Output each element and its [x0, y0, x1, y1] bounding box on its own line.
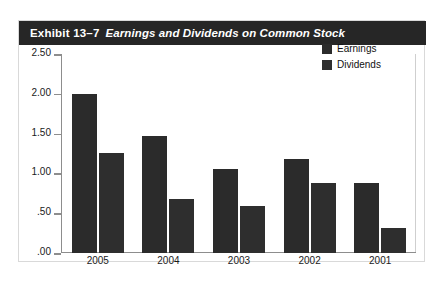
bar-group: [345, 54, 416, 253]
exhibit-card: Exhibit 13–7 Earnings and Dividends on C…: [18, 20, 425, 262]
bar-dividends-2001: [381, 228, 406, 253]
legend-item-earnings: Earnings: [322, 43, 381, 54]
y-axis-tick-mark: [54, 253, 61, 255]
exhibit-title-bar: Exhibit 13–7 Earnings and Dividends on C…: [19, 21, 426, 45]
bar-group: [274, 54, 345, 253]
y-axis-tick-mark: [54, 54, 61, 56]
y-axis-tick-mark: [54, 173, 61, 175]
legend-item-dividends: Dividends: [322, 59, 381, 70]
bar-group: [204, 54, 275, 253]
exhibit-number-label: Exhibit 13–7: [30, 27, 100, 39]
exhibit-title-text: Earnings and Dividends on Common Stock: [106, 27, 346, 39]
bar-dividends-2002: [311, 183, 336, 253]
y-axis-tick-label: 2.50: [32, 47, 51, 58]
chart-legend: EarningsDividends: [322, 43, 381, 70]
bar-earnings-2004: [142, 136, 167, 253]
bar-dividends-2005: [99, 153, 124, 253]
x-axis-tick-label: 2003: [204, 255, 275, 266]
bar-dividends-2003: [240, 206, 265, 253]
y-axis-tick-mark: [54, 94, 61, 96]
bar-earnings-2003: [213, 169, 238, 253]
bar-dividends-2004: [169, 199, 194, 253]
y-axis: 2.502.001.501.00.50.00: [19, 54, 61, 253]
y-axis-tick-label: 1.50: [32, 127, 51, 138]
y-axis-tick-label: .00: [37, 246, 51, 257]
x-axis-tick-label: 2001: [345, 255, 416, 266]
y-axis-tick-label: 1.00: [32, 166, 51, 177]
legend-swatch-icon: [322, 44, 332, 54]
legend-label: Earnings: [337, 43, 376, 54]
y-axis-tick-mark: [54, 134, 61, 136]
y-axis-tick-label: .50: [37, 206, 51, 217]
y-axis-tick-label: 2.00: [32, 87, 51, 98]
bar-group: [133, 54, 204, 253]
bar-earnings-2005: [72, 94, 97, 253]
legend-swatch-icon: [322, 60, 332, 70]
legend-label: Dividends: [337, 59, 381, 70]
x-axis-tick-label: 2002: [274, 255, 345, 266]
bars-layer: [63, 54, 416, 253]
y-axis-tick-mark: [54, 213, 61, 215]
x-axis-tick-label: 2004: [133, 255, 204, 266]
x-axis-tick-label: 2005: [63, 255, 134, 266]
bar-earnings-2002: [284, 159, 309, 253]
x-axis: 20052004200320022001: [63, 255, 416, 273]
bar-earnings-2001: [354, 183, 379, 253]
bar-group: [63, 54, 134, 253]
